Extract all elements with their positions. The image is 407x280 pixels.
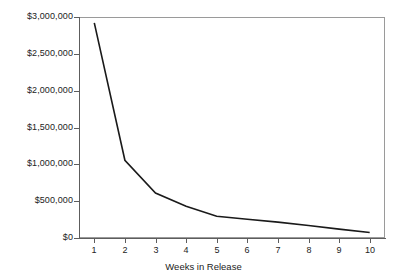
y-axis-tick: [74, 54, 79, 55]
x-axis-tick-label: 6: [235, 245, 259, 255]
x-axis-tick-label: 8: [297, 245, 321, 255]
x-axis-tick: [186, 239, 187, 243]
y-axis-tick-label: $1,500,000: [27, 123, 73, 132]
x-axis-tick: [309, 239, 310, 243]
y-axis-tick-label: $0: [63, 233, 73, 242]
y-axis-tick-label: $2,000,000: [27, 86, 73, 95]
x-axis-tick: [125, 239, 126, 243]
x-axis-tick-label: 10: [358, 245, 382, 255]
y-axis-tick-label: $1,000,000: [27, 159, 73, 168]
y-axis-line: [79, 17, 80, 239]
x-axis-tick-label: 5: [205, 245, 229, 255]
x-axis-tick-label: 3: [144, 245, 168, 255]
x-axis-tick: [370, 239, 371, 243]
x-axis-tick: [278, 239, 279, 243]
x-axis-tick-label: 1: [82, 245, 106, 255]
y-axis-tick: [74, 164, 79, 165]
x-axis-tick-label: 2: [113, 245, 137, 255]
x-axis-tick: [156, 239, 157, 243]
x-axis-tick: [217, 239, 218, 243]
x-axis-tick-label: 7: [266, 245, 290, 255]
x-axis-tick: [339, 239, 340, 243]
x-axis-tick: [247, 239, 248, 243]
x-axis-tick-label: 9: [327, 245, 351, 255]
y-axis-tick: [74, 201, 79, 202]
plot-area: [79, 17, 385, 238]
y-axis-tick: [74, 128, 79, 129]
line-chart: $0$500,000$1,000,000$1,500,000$2,000,000…: [0, 0, 407, 280]
y-axis-tick: [74, 17, 79, 18]
y-axis-tick: [74, 238, 79, 239]
y-axis-tick-label: $3,000,000: [27, 12, 73, 21]
y-axis-tick-label: $2,500,000: [27, 49, 73, 58]
y-axis-tick: [74, 91, 79, 92]
y-axis-tick-label: $500,000: [35, 196, 73, 205]
x-axis-tick: [94, 239, 95, 243]
x-axis-tick-label: 4: [174, 245, 198, 255]
x-axis-title: Weeks in Release: [0, 261, 407, 272]
